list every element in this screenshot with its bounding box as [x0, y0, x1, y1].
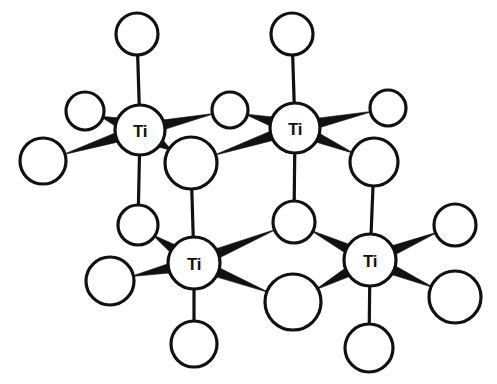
figure-background	[0, 0, 497, 384]
ligand-atom-o-tr-right	[350, 138, 398, 186]
metal-atom-ti-top-left: Ti	[115, 105, 165, 155]
bond-line	[138, 53, 140, 107]
metal-atom-label: Ti	[133, 122, 147, 141]
metal-atom-ti-bottom-left: Ti	[168, 237, 220, 289]
ligand-atom-o-tl-left	[20, 138, 66, 184]
ligand-atom-o-tl-upleft	[66, 92, 104, 130]
ligand-atom-o-br-right	[429, 271, 481, 323]
ligand-atom-o-br-upright	[434, 204, 476, 246]
metal-atom-ti-bottom-right: Ti	[344, 234, 396, 286]
metal-atom-label: Ti	[363, 252, 377, 271]
metal-atom-label: Ti	[187, 255, 201, 274]
ligand-atom-o-bridge-top	[212, 92, 248, 128]
ligand-atom-o-bridge-back	[273, 201, 315, 243]
bond-line	[293, 53, 295, 105]
ligand-atom-o-bl-left	[86, 257, 134, 305]
ligand-atom-o-bridge-low	[265, 274, 321, 330]
metal-atom-ti-top-right: Ti	[270, 103, 320, 153]
molecular-structure-figure: TiTiTiTi	[0, 0, 497, 384]
ligand-atom-o-tr-up	[271, 13, 313, 55]
bond-line	[192, 187, 194, 239]
structure-canvas: TiTiTiTi	[0, 0, 497, 384]
ligand-atom-o-tr-upright	[370, 90, 406, 126]
ligand-atom-o-br-down	[345, 324, 393, 372]
ligand-atom-o-tl-up	[116, 13, 158, 55]
metal-atom-label: Ti	[288, 120, 302, 139]
ligand-atom-o-bl-upleft	[118, 205, 158, 245]
bond-line	[371, 184, 373, 236]
ligand-atom-o-bridge-front	[165, 137, 217, 189]
bond-line	[294, 151, 295, 203]
bond-line	[138, 153, 139, 207]
ligand-atom-o-bl-down	[171, 321, 217, 367]
